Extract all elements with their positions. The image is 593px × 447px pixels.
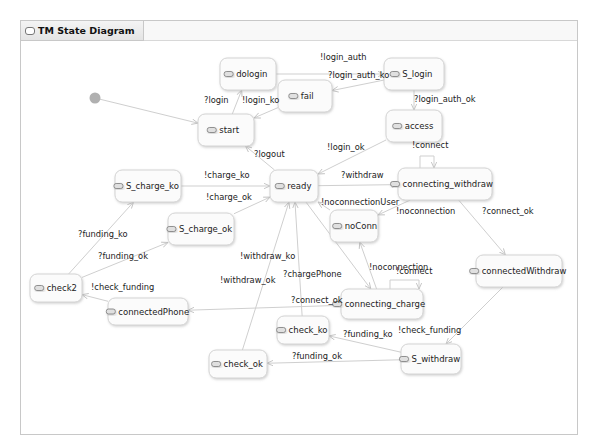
transition-label: ?connect_ok bbox=[482, 206, 534, 216]
transition-label: !noconnection bbox=[396, 206, 455, 216]
state-connecting-withdraw[interactable]: connecting_withdraw bbox=[391, 168, 493, 200]
state-icon bbox=[333, 224, 342, 229]
state-label: connecting_charge bbox=[345, 299, 426, 309]
state-label: start bbox=[219, 125, 239, 135]
transition-label: ?funding_ko bbox=[78, 229, 128, 239]
state-connectedwithdraw[interactable]: connectedWithdraw bbox=[470, 255, 567, 287]
transition-label: !connect bbox=[412, 140, 449, 150]
transition-arrow-slogin-fail[interactable] bbox=[332, 80, 384, 90]
transition-arrow-init-start[interactable] bbox=[100, 99, 198, 123]
state-icon bbox=[114, 184, 123, 189]
state-connecting-charge[interactable]: connecting_charge bbox=[333, 289, 426, 319]
state-icon bbox=[289, 94, 298, 99]
state-s-login[interactable]: S_login bbox=[384, 58, 444, 90]
state-s-withdraw[interactable]: S_withdraw bbox=[400, 344, 462, 374]
transition-label: ?funding_ok bbox=[292, 351, 342, 361]
state-check2[interactable]: check2 bbox=[30, 274, 82, 302]
transition-label: !withdraw_ok bbox=[220, 275, 276, 285]
state-icon bbox=[167, 227, 176, 232]
states-layer: dologinS_loginfailaccessstartS_charge_ko… bbox=[30, 58, 567, 378]
state-diagram-canvas: dologinS_loginfailaccessstartS_charge_ko… bbox=[0, 0, 593, 447]
transition-label: ?withdraw bbox=[341, 170, 384, 180]
state-fail[interactable]: fail bbox=[278, 80, 332, 112]
transition-label: !check_funding bbox=[398, 325, 461, 335]
transition-label: ?login_auth_ok bbox=[414, 94, 476, 104]
state-icon bbox=[212, 362, 221, 367]
transition-arrow-cwd-sw[interactable] bbox=[446, 287, 503, 344]
transition-label: ?login_auth_ko bbox=[328, 70, 389, 80]
state-icon bbox=[35, 286, 44, 291]
transition-arrow-start-dologin[interactable] bbox=[232, 90, 241, 114]
state-icon bbox=[224, 72, 233, 77]
state-start[interactable]: start bbox=[198, 114, 254, 146]
state-icon bbox=[277, 328, 286, 333]
state-label: fail bbox=[301, 91, 314, 101]
transition-arrow-cw-self[interactable] bbox=[420, 156, 434, 168]
transition-label: !charge_ko bbox=[204, 170, 250, 180]
transition-label: ?logout bbox=[254, 149, 285, 159]
state-icon bbox=[390, 72, 399, 77]
state-label: connectedPhone bbox=[118, 307, 189, 317]
transition-label: ?chargePhone bbox=[283, 269, 342, 279]
state-label: check_ok bbox=[224, 359, 263, 369]
transition-label: ?funding_ko bbox=[343, 329, 393, 339]
state-icon bbox=[391, 182, 400, 187]
state-access[interactable]: access bbox=[386, 110, 442, 142]
state-icon bbox=[470, 269, 479, 274]
transition-label: !noconnectionUser bbox=[321, 197, 400, 207]
transition-label: !login_auth bbox=[320, 52, 367, 62]
state-label: check2 bbox=[47, 283, 77, 293]
transition-label: !charge_ok bbox=[206, 192, 252, 202]
transition-label: !withdraw_ko bbox=[240, 251, 295, 261]
state-label: access bbox=[405, 121, 434, 131]
state-label: S_withdraw bbox=[412, 354, 461, 364]
state-s-charge-ko[interactable]: S_charge_ko bbox=[114, 170, 181, 202]
transition-label: !connect bbox=[396, 266, 433, 276]
initial-state-dot[interactable] bbox=[90, 93, 101, 104]
state-ready[interactable]: ready bbox=[270, 170, 318, 202]
state-label: S_charge_ko bbox=[126, 181, 179, 191]
state-icon bbox=[400, 357, 409, 362]
transition-label: ?login bbox=[204, 95, 229, 105]
transition-label: ?connect_ok bbox=[291, 295, 343, 305]
state-label: check_ko bbox=[289, 325, 328, 335]
state-label: dologin bbox=[236, 69, 267, 79]
transition-arrow-cp-check2[interactable] bbox=[82, 295, 108, 302]
state-s-charge-ok[interactable]: S_charge_ok bbox=[167, 213, 234, 245]
transition-arrow-ready-cw[interactable] bbox=[318, 185, 398, 186]
transition-label: ?funding_ok bbox=[98, 251, 148, 261]
state-dologin[interactable]: dologin bbox=[220, 58, 276, 90]
state-icon bbox=[275, 184, 284, 189]
state-check-ko[interactable]: check_ko bbox=[277, 316, 329, 344]
transition-label: !check_funding bbox=[91, 282, 154, 292]
state-label: connectedWithdraw bbox=[482, 266, 567, 276]
state-connectedphone[interactable]: connectedPhone bbox=[106, 298, 189, 325]
state-icon bbox=[106, 309, 115, 314]
state-label: S_charge_ok bbox=[179, 224, 232, 234]
transition-arrow-cc-cp[interactable] bbox=[188, 305, 341, 310]
state-label: noConn bbox=[345, 221, 378, 231]
state-noconn[interactable]: noConn bbox=[330, 210, 378, 242]
state-label: ready bbox=[287, 181, 311, 191]
state-label: connecting_withdraw bbox=[403, 179, 493, 189]
state-icon bbox=[393, 124, 402, 129]
transition-label: !login_ko bbox=[242, 95, 279, 105]
transition-arrow-cc-self[interactable] bbox=[390, 280, 419, 289]
transition-label: !login_ok bbox=[327, 142, 365, 152]
transition-arrow-fail-start[interactable] bbox=[254, 108, 278, 118]
state-icon bbox=[207, 128, 216, 133]
state-label: S_login bbox=[402, 69, 432, 79]
state-check-ok[interactable]: check_ok bbox=[209, 350, 267, 378]
